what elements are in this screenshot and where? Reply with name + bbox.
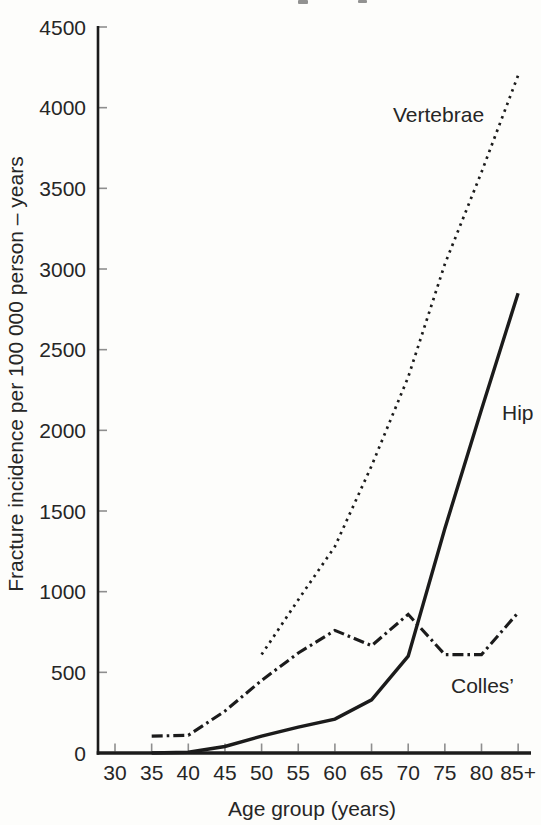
y-tick-label: 0: [74, 742, 86, 765]
fracture-incidence-figure: 0500100015002000250030003500400045003035…: [0, 0, 541, 825]
x-tick-label: 50: [250, 761, 273, 784]
x-axis-title: Age group (years): [228, 797, 396, 821]
x-tick-label: 45: [213, 761, 236, 784]
y-tick-label: 3500: [39, 177, 86, 200]
x-tick-label: 85+: [500, 761, 536, 784]
x-tick-label: 55: [287, 761, 310, 784]
x-tick-label: 75: [433, 761, 456, 784]
y-axis-title: Fracture incidence per 100 000 person – …: [4, 156, 28, 591]
x-tick-label: 30: [103, 761, 126, 784]
y-tick-label: 1000: [39, 580, 86, 603]
series-label-colles: Colles’: [451, 674, 514, 698]
x-tick-label: 60: [323, 761, 346, 784]
x-tick-label: 70: [397, 761, 420, 784]
y-tick-label: 2000: [39, 419, 86, 442]
y-tick-label: 500: [51, 661, 86, 684]
y-tick-label: 2500: [39, 338, 86, 361]
x-tick-label: 80: [470, 761, 493, 784]
x-tick-label: 35: [140, 761, 163, 784]
series-line-vertebrae: [262, 75, 518, 654]
y-tick-label: 4500: [39, 16, 86, 39]
y-tick-label: 1500: [39, 500, 86, 523]
x-tick-label: 40: [177, 761, 200, 784]
y-tick-label: 3000: [39, 258, 86, 281]
x-tick-label: 65: [360, 761, 383, 784]
series-label-hip: Hip: [502, 401, 534, 425]
series-label-vertebrae: Vertebrae: [393, 103, 484, 127]
y-tick-label: 4000: [39, 96, 86, 119]
